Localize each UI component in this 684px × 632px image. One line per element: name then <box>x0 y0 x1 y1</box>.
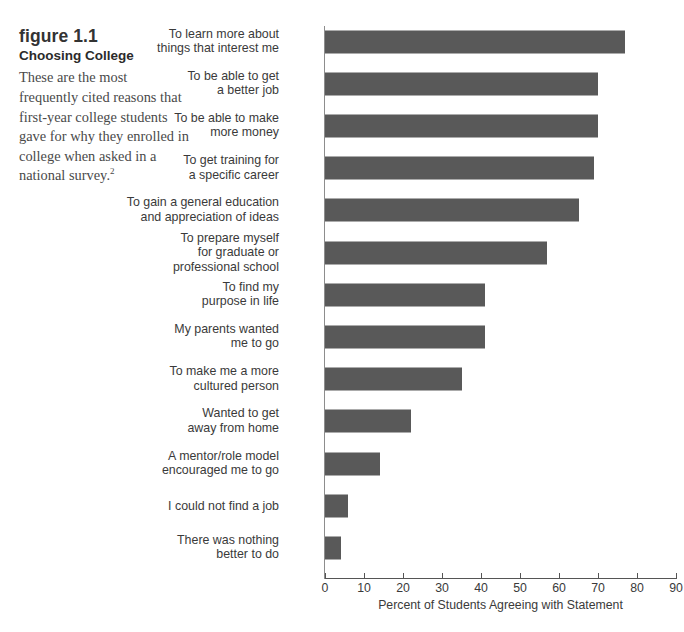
bar-category-label: To be able to get a better job <box>49 69 279 98</box>
x-tick-label: 30 <box>422 581 462 595</box>
x-tick <box>520 573 521 579</box>
x-tick-label: 80 <box>617 581 657 595</box>
x-tick <box>676 573 677 579</box>
bar-row: To prepare myself for graduate or profes… <box>0 237 684 268</box>
x-tick-label: 90 <box>656 581 684 595</box>
bar-row: A mentor/role model encouraged me to go <box>0 448 684 479</box>
x-tick-label: 60 <box>539 581 579 595</box>
x-tick <box>442 573 443 579</box>
x-tick-label: 20 <box>383 581 423 595</box>
bar <box>325 157 594 180</box>
bar <box>325 241 547 264</box>
bar-category-label: My parents wanted me to go <box>49 322 279 351</box>
x-tick <box>325 573 326 579</box>
bar <box>325 30 625 53</box>
x-tick-label: 0 <box>305 581 345 595</box>
bar-chart: To learn more about things that interest… <box>0 0 684 632</box>
bar-category-label: A mentor/role model encouraged me to go <box>49 449 279 478</box>
bar <box>325 199 579 222</box>
bar <box>325 452 380 475</box>
bar-row: To learn more about things that interest… <box>0 26 684 57</box>
bar <box>325 283 485 306</box>
bar-category-label: There was nothing better to do <box>49 533 279 562</box>
bar <box>325 410 411 433</box>
x-axis-title: Percent of Students Agreeing with Statem… <box>325 598 676 612</box>
bar-category-label: To learn more about things that interest… <box>49 27 279 56</box>
bar-row: I could not find a job <box>0 490 684 521</box>
x-tick-label: 40 <box>461 581 501 595</box>
x-tick-label: 50 <box>500 581 540 595</box>
bar-category-label: To make me a more cultured person <box>49 365 279 394</box>
bar <box>325 72 598 95</box>
bar <box>325 325 485 348</box>
bar-category-label: To gain a general education and apprecia… <box>49 196 279 225</box>
bar-category-label: To prepare myself for graduate or profes… <box>49 231 279 275</box>
bar <box>325 368 462 391</box>
bar-category-label: To find my purpose in life <box>49 280 279 309</box>
bar-row: To find my purpose in life <box>0 279 684 310</box>
bar-category-label: To be able to make more money <box>49 111 279 140</box>
bar-category-label: Wanted to get away from home <box>49 407 279 436</box>
x-tick <box>364 573 365 579</box>
bar-row: To make me a more cultured person <box>0 364 684 395</box>
x-tick-label: 70 <box>578 581 618 595</box>
x-tick <box>481 573 482 579</box>
bar <box>325 536 341 559</box>
bar-row: To be able to get a better job <box>0 68 684 99</box>
bar-row: To gain a general education and apprecia… <box>0 195 684 226</box>
bar-row: To get training for a specific career <box>0 153 684 184</box>
x-tick <box>559 573 560 579</box>
bar-row: My parents wanted me to go <box>0 321 684 352</box>
x-tick <box>637 573 638 579</box>
bar-row: To be able to make more money <box>0 110 684 141</box>
bar-category-label: I could not find a job <box>49 498 279 513</box>
bar <box>325 494 348 517</box>
bar-row: Wanted to get away from home <box>0 406 684 437</box>
bar-row: There was nothing better to do <box>0 532 684 563</box>
bar <box>325 114 598 137</box>
x-tick <box>403 573 404 579</box>
x-tick-label: 10 <box>344 581 384 595</box>
x-tick <box>598 573 599 579</box>
x-axis-line <box>325 578 676 579</box>
bar-category-label: To get training for a specific career <box>49 154 279 183</box>
